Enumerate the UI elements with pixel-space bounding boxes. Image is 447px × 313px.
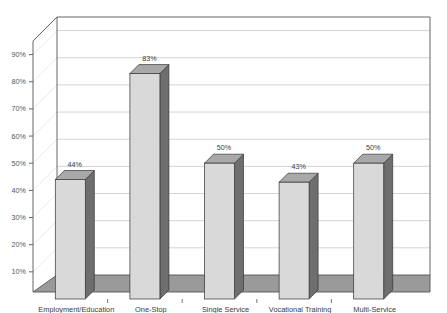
x-axis-label: Vocational Training [269, 305, 331, 313]
bar-value-label: 50% [366, 143, 381, 152]
chart-left-wall [33, 17, 57, 292]
svg-text:30%: 30% [12, 213, 27, 222]
svg-text:40%: 40% [12, 186, 27, 195]
svg-text:50%: 50% [12, 159, 27, 168]
svg-text:80%: 80% [12, 77, 27, 86]
bar [205, 154, 244, 299]
x-axis-label: Single Service [202, 305, 249, 313]
svg-text:20%: 20% [12, 240, 27, 249]
x-axis-label: Multi-Service [353, 305, 396, 313]
bar [55, 171, 94, 299]
svg-text:60%: 60% [12, 132, 27, 141]
y-axis-ticks: 10%20%30%40%50%60%70%80%90% [12, 50, 33, 276]
svg-text:90%: 90% [12, 50, 27, 59]
bar-value-label: 43% [291, 162, 306, 171]
svg-text:10%: 10% [12, 267, 27, 276]
x-axis-label: One-Stop [135, 305, 167, 313]
bar [130, 65, 169, 299]
bar-value-label: 44% [68, 160, 83, 169]
x-axis-labels: Employment/EducationOne-StopSingle Servi… [38, 305, 396, 313]
chart-title-fragment [250, 0, 440, 8]
bar-value-label: 50% [217, 143, 232, 152]
bar-value-label: 83% [142, 54, 157, 63]
bar [354, 154, 393, 299]
bar-chart: 10%20%30%40%50%60%70%80%90% 44%83%50%43%… [0, 0, 447, 313]
x-axis-label: Employment/Education [38, 305, 114, 313]
svg-text:70%: 70% [12, 104, 27, 113]
x-axis-separators [108, 299, 332, 303]
bar [279, 173, 318, 299]
chart-canvas: 10%20%30%40%50%60%70%80%90% 44%83%50%43%… [0, 0, 447, 313]
